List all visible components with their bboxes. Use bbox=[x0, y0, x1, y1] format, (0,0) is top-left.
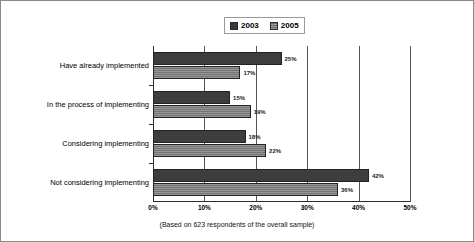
bar-2005[interactable] bbox=[153, 105, 251, 118]
legend-label-2003: 2003 bbox=[241, 22, 259, 30]
bar-2003[interactable] bbox=[153, 91, 230, 104]
category-label: Considering implementing bbox=[62, 140, 149, 148]
category-label: Not considering implementing bbox=[50, 179, 149, 187]
bar-row: 18% bbox=[153, 130, 410, 143]
bar-value-label: 22% bbox=[269, 148, 281, 154]
chart-footnote: (Based on 623 respondents of the overall… bbox=[1, 221, 473, 228]
chart-legend: 2003 2005 bbox=[224, 17, 305, 34]
bar-value-label: 25% bbox=[285, 56, 297, 62]
x-axis-tick-labels: 0%10%20%30%40%50% bbox=[153, 205, 410, 215]
gridline-50pct bbox=[410, 46, 411, 202]
x-tick-label: 20% bbox=[249, 205, 262, 212]
category-label: In the process of implementing bbox=[47, 101, 149, 109]
bar-value-label: 36% bbox=[341, 187, 353, 193]
bar-row: 19% bbox=[153, 105, 410, 118]
bar-row: 22% bbox=[153, 144, 410, 157]
legend-entry-2003: 2003 bbox=[230, 22, 259, 30]
bar-value-label: 18% bbox=[249, 134, 261, 140]
bar-2003[interactable] bbox=[153, 130, 246, 143]
bar-2005[interactable] bbox=[153, 66, 240, 79]
x-tick-label: 0% bbox=[148, 205, 157, 212]
bar-group: 25%17% bbox=[153, 46, 410, 85]
chart-figure: 2003 2005 Have already implementedIn the… bbox=[0, 0, 474, 242]
bar-value-label: 17% bbox=[243, 70, 255, 76]
x-axis-line bbox=[153, 201, 410, 202]
bar-2003[interactable] bbox=[153, 169, 369, 182]
x-tick-label: 50% bbox=[403, 205, 416, 212]
bar-row: 15% bbox=[153, 91, 410, 104]
legend-entry-2005: 2005 bbox=[270, 22, 299, 30]
bar-group: 18%22% bbox=[153, 124, 410, 163]
x-tick-label: 10% bbox=[198, 205, 211, 212]
bar-group: 15%19% bbox=[153, 85, 410, 124]
legend-label-2005: 2005 bbox=[281, 22, 299, 30]
bar-value-label: 42% bbox=[372, 173, 384, 179]
bar-2003[interactable] bbox=[153, 52, 282, 65]
bar-row: 17% bbox=[153, 66, 410, 79]
bar-value-label: 19% bbox=[254, 109, 266, 115]
legend-swatch-2005-icon bbox=[270, 22, 278, 30]
bar-row: 25% bbox=[153, 52, 410, 65]
bar-2005[interactable] bbox=[153, 183, 338, 196]
legend-swatch-2003-icon bbox=[230, 22, 238, 30]
bar-2005[interactable] bbox=[153, 144, 266, 157]
plot-area: 25%17%15%19%18%22%42%36% bbox=[153, 46, 410, 202]
category-axis-labels: Have already implementedIn the process o… bbox=[13, 46, 149, 202]
bar-groups: 25%17%15%19%18%22%42%36% bbox=[153, 46, 410, 202]
x-tick-label: 40% bbox=[352, 205, 365, 212]
bar-row: 42% bbox=[153, 169, 410, 182]
bar-group: 42%36% bbox=[153, 163, 410, 202]
category-label: Have already implemented bbox=[60, 62, 149, 70]
x-tick-label: 30% bbox=[301, 205, 314, 212]
bar-value-label: 15% bbox=[233, 95, 245, 101]
bar-row: 36% bbox=[153, 183, 410, 196]
